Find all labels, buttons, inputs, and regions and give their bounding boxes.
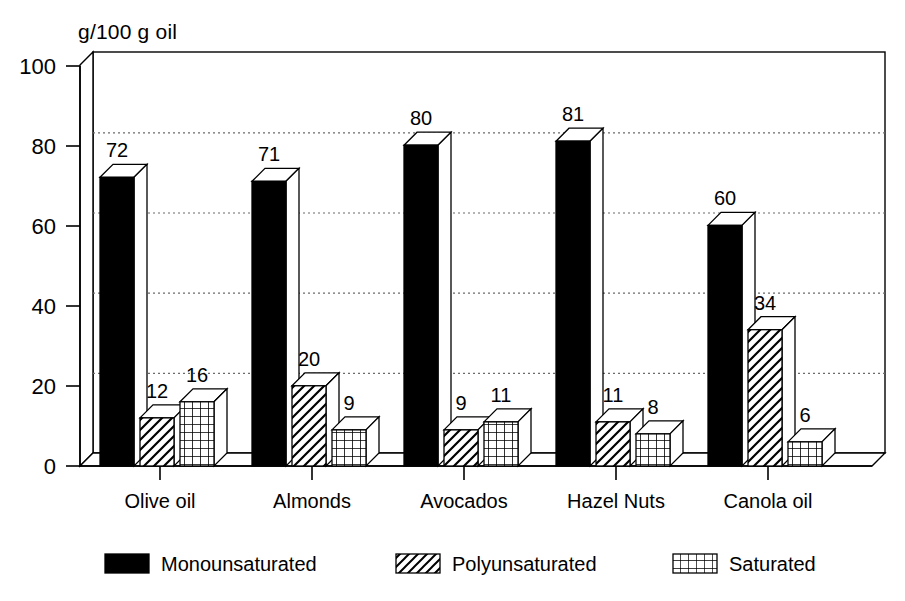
bar-saturated	[332, 417, 379, 466]
legend-swatch-saturated	[673, 554, 717, 573]
value-label-hazel-nuts-mono: 81	[546, 104, 600, 124]
legend-swatch-polyunsaturated	[396, 554, 440, 573]
y-axis-ticks	[66, 66, 80, 466]
x-tick-label-hazel-nuts: Hazel Nuts	[540, 490, 692, 512]
x-tick-label-canola-oil: Canola oil	[692, 490, 844, 512]
bar-saturated	[484, 409, 531, 466]
value-label-canola-oil-sat: 6	[778, 405, 832, 425]
y-tick-label-20: 20	[0, 376, 56, 398]
bar-saturated	[788, 429, 835, 466]
legend-label-saturated: Saturated	[729, 554, 816, 574]
y-tick-label-60: 60	[0, 216, 56, 238]
value-label-canola-oil-mono: 60	[698, 188, 752, 208]
value-label-canola-oil-poly: 34	[738, 293, 792, 313]
x-axis-ticks	[80, 466, 872, 480]
y-tick-label-80: 80	[0, 136, 56, 158]
legend-label-monounsaturated: Monounsaturated	[161, 554, 317, 574]
value-label-almonds-sat: 9	[322, 393, 376, 413]
y-tick-label-40: 40	[0, 296, 56, 318]
value-label-olive-oil-sat: 16	[170, 365, 224, 385]
y-tick-label-0: 0	[0, 456, 56, 478]
bar-chart: g/100 g oil	[0, 0, 905, 601]
y-tick-label-100: 100	[0, 56, 56, 78]
bar-monounsaturated	[404, 132, 451, 466]
x-tick-label-almonds: Almonds	[236, 490, 388, 512]
value-label-hazel-nuts-sat: 8	[626, 397, 680, 417]
bar-monounsaturated	[556, 128, 603, 466]
value-label-avocados-sat: 11	[474, 385, 528, 405]
bar-saturated	[180, 389, 227, 466]
value-label-olive-oil-mono: 72	[90, 140, 144, 160]
value-label-avocados-mono: 80	[394, 108, 448, 128]
bar-saturated	[636, 421, 683, 466]
x-tick-label-avocados: Avocados	[388, 490, 540, 512]
value-label-almonds-poly: 20	[282, 349, 336, 369]
value-label-almonds-mono: 71	[242, 144, 296, 164]
legend-swatch-monounsaturated	[105, 554, 149, 573]
x-tick-label-olive-oil: Olive oil	[84, 490, 236, 512]
legend-label-polyunsaturated: Polyunsaturated	[452, 554, 597, 574]
